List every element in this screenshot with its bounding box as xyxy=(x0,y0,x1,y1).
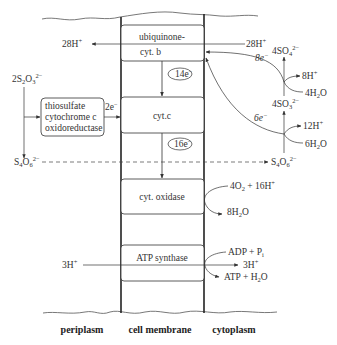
oxygen-label: 4O2 + 16H+ xyxy=(230,179,275,192)
arrow-adp-to-atp xyxy=(205,252,226,277)
compartment-cytoplasm: cytoplasm xyxy=(212,324,256,335)
protons-in-label: 28H+ xyxy=(246,37,266,49)
enzyme-label-1: thiosulfate xyxy=(45,101,85,111)
atp-product-label: ATP + H2O xyxy=(224,272,268,283)
label-6e: 6e− xyxy=(254,112,267,123)
water6-line xyxy=(284,134,303,143)
label-2e: 2e− xyxy=(105,101,118,112)
adp-label: ADP + Pi xyxy=(228,247,264,258)
enzyme-label-3: oxidoreductase xyxy=(45,123,103,133)
h3-left-label: 3H+ xyxy=(62,258,78,270)
cytc-label: cyt.c xyxy=(153,111,171,121)
h8-label: 8H+ xyxy=(302,69,318,81)
ubq-label-2: cyt. b xyxy=(140,47,161,57)
arrow-6e-to-membrane xyxy=(206,58,284,134)
tetrathionate-right-label: S4O62− xyxy=(271,155,297,168)
compartment-cell-membrane: cell membrane xyxy=(128,324,192,335)
arrow-oxygen-to-water xyxy=(204,186,228,214)
arrow-12h xyxy=(284,126,301,134)
water4-label: 4H2O xyxy=(305,88,327,99)
atp-label: ATP synthase xyxy=(136,253,188,263)
top-wavy-edge xyxy=(42,12,258,20)
complex-cyt-oxidase: cyt. oxidase xyxy=(121,179,204,214)
thiosulfate-cytochrome-c-oxidoreductase: thiosulfate cytochrome c oxidoreductase xyxy=(41,98,104,136)
arrow-8e-to-membrane xyxy=(206,52,284,82)
complex-atp-synthase: ATP synthase xyxy=(121,245,204,281)
water4-line xyxy=(284,82,303,92)
ubq-label-1: ubiquinone- xyxy=(139,32,185,42)
complex-ubiquinone-cyt-b: ubiquinone- cyt. b xyxy=(121,25,204,61)
water8-label: 8H2O xyxy=(227,207,249,218)
thiosulfate-label: 2S2O32− xyxy=(12,72,43,85)
bottom-wavy-edge xyxy=(43,311,277,313)
cox-label: cyt. oxidase xyxy=(139,192,184,202)
compartment-periplasm: periplasm xyxy=(61,324,104,335)
arrow-8h xyxy=(284,76,300,82)
thiosulfate-oxidation-diagram: ubiquinone- cyt. b cyt.c cyt. oxidase AT… xyxy=(0,0,337,345)
water6-label: 6H2O xyxy=(305,139,327,150)
protons-out-label: 28H+ xyxy=(62,37,82,49)
complex-cyt-c: cyt.c xyxy=(121,97,204,133)
enzyme-label-2: cytochrome c xyxy=(45,112,96,122)
tetrathionate-left-label: S4O62− xyxy=(14,155,40,168)
h3-right-label: 3H+ xyxy=(243,258,259,270)
h12-label: 12H+ xyxy=(303,119,323,131)
sulfate-label: 4SO42− xyxy=(272,44,299,57)
sulfite-label: 4SO32− xyxy=(272,97,299,110)
